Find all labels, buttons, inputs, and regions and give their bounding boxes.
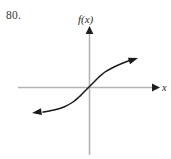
x-axis-arrow-icon: [152, 84, 160, 92]
function-curve: [43, 60, 131, 112]
curve-left-arrow-icon: [32, 108, 42, 115]
curve-right-arrow-icon: [128, 58, 138, 64]
x-axis-label: x: [161, 82, 167, 93]
graph-plot: f(x) x: [0, 0, 171, 159]
figure-container: 80. f(x) x: [0, 0, 171, 159]
y-axis-arrow-icon: [86, 26, 94, 34]
y-axis-label: f(x): [78, 13, 94, 26]
